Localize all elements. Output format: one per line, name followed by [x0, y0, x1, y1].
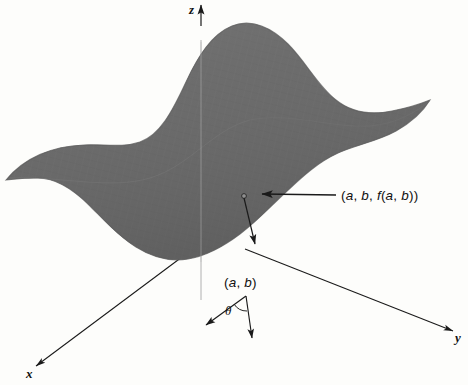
x-axis	[36, 257, 182, 366]
theta-angle-label: θ	[225, 303, 231, 319]
y-axis-label: y	[455, 330, 461, 346]
surface-z-equals-f	[6, 23, 430, 260]
surface-point-marker	[242, 194, 247, 199]
z-axis-label: z	[189, 2, 194, 18]
domain-point-label: (a, b)	[224, 275, 257, 290]
x-axis-label: x	[26, 366, 33, 382]
y-axis	[245, 249, 453, 331]
surface-point-label: (a, b, f(a, b))	[341, 188, 418, 203]
angle-arc	[234, 304, 247, 311]
surface-diagram-figure: z x y (a, b, f(a, b)) (a, b) θ	[0, 0, 468, 385]
